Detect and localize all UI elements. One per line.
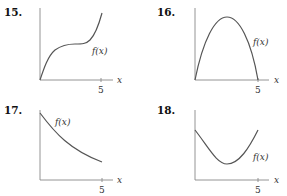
chart-18-plot: f(x) x 5: [143, 98, 287, 196]
curve-label: f(x): [252, 37, 269, 47]
x-axis-label: x: [274, 75, 279, 85]
chart-panel-15: 15. f(x) x 5: [0, 0, 143, 98]
function-curve: [195, 17, 258, 80]
chart-17-plot: f(x) x 5: [0, 98, 143, 196]
x-tick-label: 5: [99, 185, 105, 195]
x-axis-label: x: [117, 75, 122, 85]
x-tick-label: 5: [255, 185, 261, 195]
curve-label: f(x): [252, 152, 269, 162]
chart-16-plot: f(x) x 5: [143, 0, 287, 98]
x-tick-label: 5: [255, 85, 261, 95]
curve-label: f(x): [54, 117, 71, 127]
x-axis-label: x: [117, 175, 122, 185]
chart-15-plot: f(x) x 5: [0, 0, 143, 98]
chart-panel-17: 17. f(x) x 5: [0, 98, 143, 196]
x-tick-label: 5: [98, 85, 104, 95]
function-curve: [40, 113, 102, 162]
chart-panel-18: 18. f(x) x 5: [143, 98, 287, 196]
x-axis-label: x: [274, 175, 279, 185]
chart-panel-16: 16. f(x) x 5: [143, 0, 287, 98]
function-curve: [195, 130, 258, 164]
curve-label: f(x): [91, 46, 108, 56]
